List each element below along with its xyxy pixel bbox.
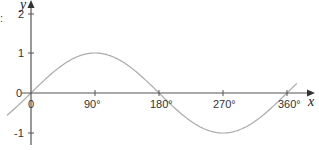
x-tick-label-0: 0 [28,98,34,110]
x-tick-label-360: 360° [278,98,301,110]
y-axis-arrow-icon [28,0,35,8]
sine-chart: 2 1 0 -1 0 90° 180° 270° 360° y x : [0,0,319,150]
x-tick-label-270: 270° [213,98,236,110]
x-axis-label: x [307,94,315,109]
x-tick-label-180: 180° [150,98,173,110]
y-tick-label-1: 1 [18,47,24,59]
y-axis-label: y [18,0,27,12]
y-tick-label-0: 0 [16,87,22,99]
cropped-text-fragment: : [0,12,3,24]
y-tick-label-neg1: -1 [14,127,24,139]
x-tick-label-90: 90° [84,98,101,110]
